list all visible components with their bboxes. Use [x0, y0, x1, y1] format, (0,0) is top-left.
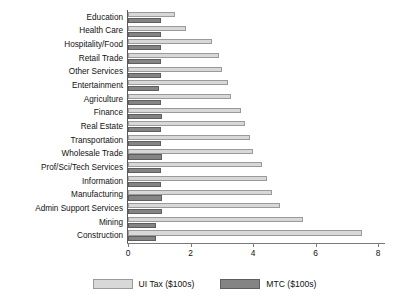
- x-tick-label: 2: [188, 248, 193, 258]
- bar-mtc: [128, 209, 162, 214]
- bar-mtc: [128, 114, 162, 119]
- bar-mtc: [128, 73, 161, 78]
- bar-mtc: [128, 141, 161, 146]
- category-label: Retail Trade: [79, 55, 123, 63]
- category-label: Real Estate: [81, 123, 123, 131]
- legend-item-ui-tax: UI Tax ($100s): [93, 279, 195, 289]
- category-label: Health Care: [79, 27, 123, 35]
- bar-ui-tax: [128, 217, 303, 222]
- bar-row: Construction: [128, 229, 378, 243]
- chart-legend: UI Tax ($100s) MTC ($100s): [0, 276, 409, 292]
- bar-chart: EducationHealth CareHospitality/FoodReta…: [0, 0, 409, 303]
- bar-ui-tax: [128, 162, 262, 167]
- category-label: Wholesale Trade: [62, 150, 123, 158]
- x-tick: [191, 243, 192, 247]
- bar-ui-tax: [128, 80, 228, 85]
- x-tick-label: 8: [376, 248, 381, 258]
- bar-mtc: [128, 182, 161, 187]
- bar-ui-tax: [128, 12, 175, 17]
- mtc-swatch: [220, 279, 260, 289]
- category-label: Admin Support Services: [35, 205, 123, 213]
- bar-ui-tax: [128, 230, 362, 235]
- bar-mtc: [128, 45, 161, 50]
- category-label: Entertainment: [72, 82, 123, 90]
- bar-row: Admin Support Services: [128, 202, 378, 216]
- bar-mtc: [128, 223, 156, 228]
- plot-area: EducationHealth CareHospitality/FoodReta…: [128, 11, 378, 243]
- bar-mtc: [128, 100, 161, 105]
- category-label: Agriculture: [84, 96, 123, 104]
- x-tick-label: 6: [313, 248, 318, 258]
- category-label: Hospitality/Food: [64, 41, 123, 49]
- bar-ui-tax: [128, 149, 253, 154]
- bar-row: Mining: [128, 216, 378, 230]
- bar-ui-tax: [128, 135, 250, 140]
- bar-ui-tax: [128, 108, 241, 113]
- category-label: Transportation: [71, 137, 124, 145]
- bar-ui-tax: [128, 190, 272, 195]
- x-tick-label: 0: [126, 248, 131, 258]
- bar-ui-tax: [128, 39, 212, 44]
- bar-mtc: [128, 18, 161, 23]
- x-tick: [128, 243, 129, 247]
- bar-row: Information: [128, 175, 378, 189]
- bar-mtc: [128, 236, 156, 241]
- ui-tax-swatch: [93, 279, 133, 289]
- bar-row: Real Estate: [128, 120, 378, 134]
- bar-row: Transportation: [128, 134, 378, 148]
- bar-row: Manufacturing: [128, 188, 378, 202]
- bar-row: Wholesale Trade: [128, 147, 378, 161]
- bar-row: Finance: [128, 107, 378, 121]
- legend-item-mtc: MTC ($100s): [220, 279, 316, 289]
- bar-row: Prof/Sci/Tech Services: [128, 161, 378, 175]
- bar-mtc: [128, 195, 162, 200]
- category-label: Construction: [77, 232, 123, 240]
- bar-row: Retail Trade: [128, 52, 378, 66]
- category-label: Other Services: [69, 68, 123, 76]
- bar-mtc: [128, 86, 159, 91]
- bar-ui-tax: [128, 67, 222, 72]
- bar-mtc: [128, 168, 161, 173]
- bar-row: Entertainment: [128, 79, 378, 93]
- bar-mtc: [128, 154, 162, 159]
- x-axis-line: [127, 243, 385, 244]
- bar-ui-tax: [128, 203, 280, 208]
- bar-mtc: [128, 32, 161, 37]
- x-tick: [378, 243, 379, 247]
- bar-row: Agriculture: [128, 93, 378, 107]
- bar-row: Education: [128, 11, 378, 25]
- legend-label-mtc: MTC ($100s): [266, 279, 316, 289]
- category-label: Information: [82, 177, 123, 185]
- bar-mtc: [128, 59, 161, 64]
- bar-ui-tax: [128, 53, 219, 58]
- category-label: Prof/Sci/Tech Services: [41, 164, 123, 172]
- bar-ui-tax: [128, 26, 186, 31]
- x-tick-label: 4: [251, 248, 256, 258]
- bar-ui-tax: [128, 176, 267, 181]
- category-label: Education: [87, 14, 123, 22]
- category-label: Mining: [99, 218, 123, 226]
- bar-ui-tax: [128, 121, 245, 126]
- bar-row: Other Services: [128, 66, 378, 80]
- bar-row: Hospitality/Food: [128, 38, 378, 52]
- bar-mtc: [128, 127, 161, 132]
- x-tick: [316, 243, 317, 247]
- x-tick: [253, 243, 254, 247]
- legend-label-ui-tax: UI Tax ($100s): [139, 279, 195, 289]
- category-label: Manufacturing: [71, 191, 123, 199]
- bar-ui-tax: [128, 94, 231, 99]
- category-label: Finance: [94, 109, 123, 117]
- bar-rows: EducationHealth CareHospitality/FoodReta…: [128, 11, 378, 243]
- bar-row: Health Care: [128, 25, 378, 39]
